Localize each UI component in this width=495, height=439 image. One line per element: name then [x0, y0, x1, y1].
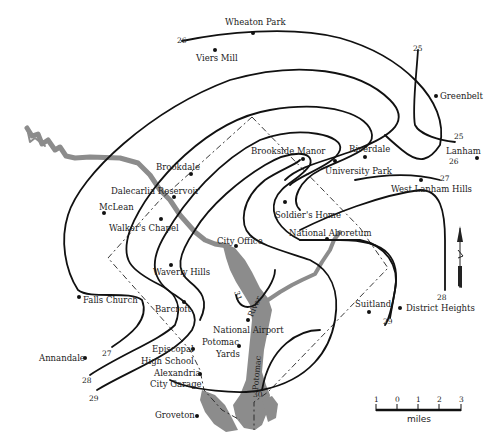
place-label: West Lanham Hills — [391, 185, 472, 194]
contour-label: 28 — [82, 377, 92, 385]
place-label: University Park — [325, 167, 392, 176]
place-label: Falls Church — [83, 296, 138, 305]
contour-label: 28 — [437, 294, 447, 302]
place-label: Riverdale — [349, 145, 390, 154]
place-label: Walker's Chapel — [109, 224, 179, 233]
place-label: Viers Mill — [196, 54, 238, 63]
scale-tick-label: 1 — [374, 396, 379, 404]
place-label: Brookdale — [156, 163, 200, 172]
place-label: Yards — [216, 350, 240, 359]
contour-label: 29 — [89, 395, 99, 403]
place-label: Annandale — [39, 354, 85, 363]
place-label: Wheaton Park — [225, 18, 286, 27]
place-label: Potomac — [202, 338, 239, 347]
place-label: Soldier's Home — [275, 211, 341, 220]
place-label: Dalecarlia Reservoir — [111, 187, 199, 196]
place-label: Barcroft — [155, 305, 191, 314]
place-label: National Airport — [213, 326, 284, 335]
place-label: District Heights — [406, 304, 475, 313]
place-label: Groveton — [155, 411, 195, 420]
map-graphic — [0, 0, 495, 439]
contour-label: 27 — [102, 350, 112, 358]
place-label: Alexandria — [154, 369, 201, 378]
scale-tick-label: 1 — [416, 396, 421, 404]
place-label: Brookside Manor — [251, 147, 325, 156]
scale-tick-label: 2 — [437, 396, 442, 404]
place-label: McLean — [99, 203, 134, 212]
place-label: Lanham — [446, 147, 481, 156]
place-label: Greenbelt — [440, 92, 483, 101]
place-label: Suitland — [355, 300, 391, 309]
contour-label: 25 — [413, 45, 423, 53]
place-label: Episcopal — [152, 345, 194, 354]
scale-bar — [376, 404, 461, 411]
scale-tick-label: 0 — [395, 396, 400, 404]
isotherm-map: Wheaton Park Viers Mill Greenbelt Lanham… — [0, 0, 495, 439]
place-label: Waverly Hills — [153, 268, 210, 277]
contour-label: 26 — [449, 158, 459, 166]
place-label: City Garage — [150, 380, 202, 389]
scale-unit-label: miles — [407, 415, 431, 424]
place-label: National Aboretum — [289, 229, 371, 238]
place-label: City Office — [217, 237, 263, 246]
contour-label: 25 — [454, 133, 464, 141]
contour-label: 30 — [253, 391, 263, 399]
contour-label: 29 — [383, 318, 393, 326]
contour-label: 27 — [440, 175, 450, 183]
north-arrow-icon — [457, 226, 463, 288]
place-label: High School — [141, 357, 194, 366]
scale-tick-label: 3 — [459, 396, 464, 404]
contour-label: 26 — [177, 37, 187, 45]
